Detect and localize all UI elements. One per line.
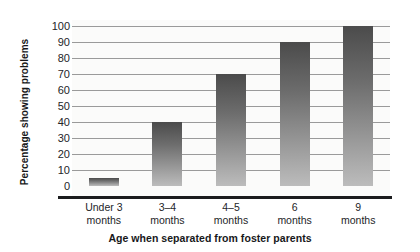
y-axis-tick-label: 20: [40, 149, 70, 160]
bar: [152, 122, 182, 186]
x-axis-tick-label: Under 3months: [68, 201, 140, 226]
x-axis-line: [58, 196, 392, 199]
x-axis-tick-label: 9months: [322, 201, 394, 226]
x-axis-tick-label-line: 6: [259, 201, 331, 214]
y-axis-tick-label: 50: [40, 101, 70, 112]
x-axis-tick-label-line: months: [195, 214, 267, 227]
x-axis-tick-labels: Under 3months3–4months4–5months6months9m…: [72, 201, 390, 231]
x-axis-tick-label-line: 9: [322, 201, 394, 214]
x-axis-tick-label: 3–4months: [131, 201, 203, 226]
y-axis-tick-label: 100: [40, 21, 70, 32]
bars-group: [72, 26, 390, 186]
x-axis-tick-label-line: months: [322, 214, 394, 227]
x-axis-tick-label: 6months: [259, 201, 331, 226]
plot-area: [72, 20, 390, 197]
y-axis-tick-label: 0: [40, 181, 70, 192]
x-axis-tick-label-line: months: [131, 214, 203, 227]
y-axis-title: Percentage showing problems: [18, 32, 32, 192]
x-axis-tick-label: 4–5months: [195, 201, 267, 226]
y-axis-tick-label: 10: [40, 165, 70, 176]
bar: [343, 26, 373, 186]
x-axis-tick-label-line: Under 3: [68, 201, 140, 214]
y-axis-tick-label: 30: [40, 133, 70, 144]
y-axis-tick-label: 90: [40, 37, 70, 48]
y-axis-tick-label: 70: [40, 69, 70, 80]
y-axis-tick-labels: 0102030405060708090100: [40, 26, 70, 186]
bar: [216, 74, 246, 186]
y-axis-tick-label: 60: [40, 85, 70, 96]
x-axis-title: Age when separated from foster parents: [0, 232, 420, 244]
x-axis-tick-label-line: 4–5: [195, 201, 267, 214]
bar: [280, 42, 310, 186]
y-axis-tick-label: 80: [40, 53, 70, 64]
y-axis-tick-label: 40: [40, 117, 70, 128]
x-axis-tick-label-line: 3–4: [131, 201, 203, 214]
bar-chart-figure: Percentage showing problems 010203040506…: [0, 0, 420, 252]
x-axis-tick-label-line: months: [68, 214, 140, 227]
x-axis-tick-label-line: months: [259, 214, 331, 227]
gridline: [72, 186, 390, 187]
bar: [89, 178, 119, 186]
